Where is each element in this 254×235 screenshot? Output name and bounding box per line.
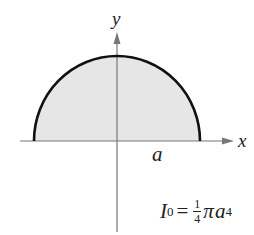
x-axis-label: x [238, 131, 246, 150]
fraction-numerator: 1 [194, 198, 200, 210]
radius-label: a [152, 144, 163, 165]
formula-lhs: I [160, 199, 167, 224]
formula-lhs-subscript: 0 [167, 204, 174, 220]
formula-var: a [215, 199, 226, 224]
y-axis-arrow-icon [114, 32, 121, 44]
y-axis-label: y [112, 9, 120, 28]
formula-fraction: 1 4 [193, 198, 201, 225]
x-axis-arrow-icon [222, 138, 234, 145]
moment-of-inertia-formula: I 0 = 1 4 π a 4 [160, 198, 232, 225]
formula-pi: π [203, 199, 214, 224]
fraction-denominator: 4 [194, 213, 200, 225]
formula-exponent: 4 [225, 204, 232, 220]
formula-equals: = [177, 199, 189, 224]
